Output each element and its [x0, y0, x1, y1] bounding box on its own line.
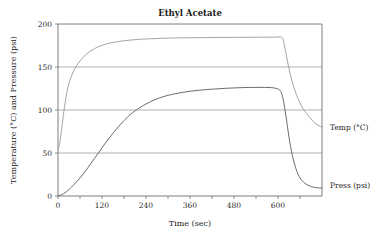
series-label-temp: Temp (°C) [330, 123, 369, 132]
y-tick-label: 0 [47, 192, 52, 201]
y-tick-label: 100 [38, 106, 53, 115]
chart-page: Ethyl Acetate 0120240360480600 050100150… [0, 0, 391, 238]
chart-canvas: Ethyl Acetate 0120240360480600 050100150… [0, 0, 391, 238]
y-tick-label: 50 [42, 149, 52, 158]
y-tick-label: 200 [38, 20, 53, 29]
x-tick-label: 120 [95, 201, 110, 210]
y-tick-label: 150 [38, 63, 53, 72]
x-tick-label: 480 [227, 201, 242, 210]
chart-title: Ethyl Acetate [158, 8, 222, 18]
y-axis-label: Temperature (°C) and Pressure (psi) [9, 36, 18, 184]
x-tick-label: 0 [56, 201, 61, 210]
series-label-press: Press (psi) [330, 181, 370, 190]
x-tick-label: 600 [271, 201, 286, 210]
x-tick-label: 360 [183, 201, 198, 210]
x-tick-label: 240 [139, 201, 154, 210]
x-axis-label: Time (sec) [169, 219, 211, 228]
